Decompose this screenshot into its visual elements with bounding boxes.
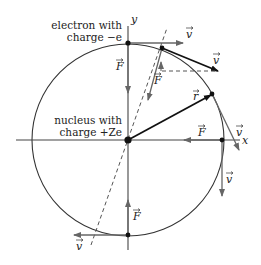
velocity-third (212, 94, 239, 150)
force-second-label: F (153, 74, 162, 87)
force-right-label: F (197, 126, 206, 139)
velocity-bottom-label: v (76, 240, 83, 253)
velocity-right-label: v (226, 173, 233, 186)
nucleus-label-2: charge +Ze (59, 126, 122, 138)
nucleus-label-1: nucleus with (54, 114, 122, 126)
velocity-top-label: v (186, 28, 193, 41)
x-axis-label: x (242, 134, 249, 147)
point-second (160, 46, 165, 51)
electron-label-1: electron with (51, 19, 122, 31)
velocity-third-label: v (236, 126, 243, 139)
point-right (220, 138, 225, 143)
point-bottom (126, 233, 131, 238)
electron-label-2: charge −e (67, 31, 122, 43)
y-axis-label: y (130, 13, 138, 26)
force-top-label: F (115, 60, 124, 73)
velocity-second-label: v (213, 54, 220, 67)
electron-point (125, 40, 130, 45)
nucleus-point (124, 136, 131, 143)
velocity-second (162, 48, 218, 71)
point-third (210, 92, 215, 97)
orbit-diagram: electron with charge −e nucleus with cha… (0, 0, 261, 265)
force-bottom-label: F (132, 210, 141, 223)
